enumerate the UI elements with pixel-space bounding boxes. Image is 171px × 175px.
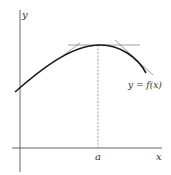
- function-graph: y x a y = f(x): [0, 0, 171, 175]
- y-axis-label: y: [21, 9, 28, 20]
- function-curve: [15, 45, 146, 92]
- point-a-label: a: [95, 151, 101, 162]
- x-axis-label: x: [156, 151, 162, 162]
- function-label: y = f(x): [127, 80, 162, 90]
